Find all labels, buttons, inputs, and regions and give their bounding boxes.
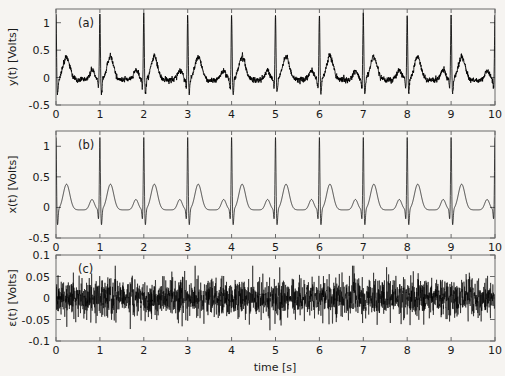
y-tick-label: 0.1 xyxy=(33,249,51,262)
y-tick-label: -0.5 xyxy=(29,99,50,112)
x-tick-label: 9 xyxy=(448,241,455,254)
x-tick-label: 10 xyxy=(488,108,502,121)
x-tick-label: 0 xyxy=(53,241,60,254)
y-tick-label: -0.1 xyxy=(29,335,50,348)
y-tick-label: 0.5 xyxy=(33,44,51,57)
y-tick-label: 0 xyxy=(43,201,50,214)
y-tick-label: 1 xyxy=(43,140,50,153)
x-tick-label: 7 xyxy=(360,344,367,357)
x-tick-label: 5 xyxy=(272,344,279,357)
ecg-figure: 01234567891010.50-0.5y(t) [Volts](a)0123… xyxy=(0,0,505,376)
x-tick-label: 5 xyxy=(272,241,279,254)
y-tick-label: 0.5 xyxy=(33,171,51,184)
y-axis-label: ε(t) [Volts] xyxy=(6,269,19,326)
x-tick-label: 3 xyxy=(184,241,191,254)
panel-tag: (b) xyxy=(78,138,94,152)
panel-tag: (c) xyxy=(78,262,93,276)
x-tick-label: 1 xyxy=(96,344,103,357)
y-tick-label: -0.5 xyxy=(29,232,50,245)
x-tick-label: 4 xyxy=(228,241,235,254)
x-tick-label: 6 xyxy=(316,241,323,254)
y-tick-label: 0 xyxy=(43,292,50,305)
x-tick-label: 0 xyxy=(53,108,60,121)
x-tick-label: 10 xyxy=(488,344,502,357)
y-axis-label: y(t) [Volts] xyxy=(6,28,19,86)
x-tick-label: 3 xyxy=(184,344,191,357)
x-tick-label: 2 xyxy=(140,344,147,357)
x-tick-label: 2 xyxy=(140,108,147,121)
x-tick-label: 8 xyxy=(404,344,411,357)
x-tick-label: 6 xyxy=(316,344,323,357)
y-tick-label: 0 xyxy=(43,72,50,85)
x-tick-label: 10 xyxy=(488,241,502,254)
x-tick-label: 2 xyxy=(140,241,147,254)
x-tick-label: 1 xyxy=(96,108,103,121)
panel-tag: (a) xyxy=(78,16,94,30)
x-tick-label: 8 xyxy=(404,108,411,121)
y-tick-label: 1 xyxy=(43,17,50,30)
x-tick-label: 4 xyxy=(228,344,235,357)
y-axis-label: x(t) [Volts] xyxy=(6,156,19,214)
x-tick-label: 8 xyxy=(404,241,411,254)
y-tick-label: -0.05 xyxy=(22,314,50,327)
x-tick-label: 9 xyxy=(448,344,455,357)
y-tick-label: 0.05 xyxy=(26,271,51,284)
x-tick-label: 5 xyxy=(272,108,279,121)
x-tick-label: 6 xyxy=(316,108,323,121)
x-tick-label: 0 xyxy=(53,344,60,357)
x-tick-label: 9 xyxy=(448,108,455,121)
x-tick-label: 4 xyxy=(228,108,235,121)
x-tick-label: 7 xyxy=(360,241,367,254)
x-tick-label: 7 xyxy=(360,108,367,121)
x-tick-label: 3 xyxy=(184,108,191,121)
x-axis-label: time [s] xyxy=(254,361,297,374)
x-tick-label: 1 xyxy=(96,241,103,254)
